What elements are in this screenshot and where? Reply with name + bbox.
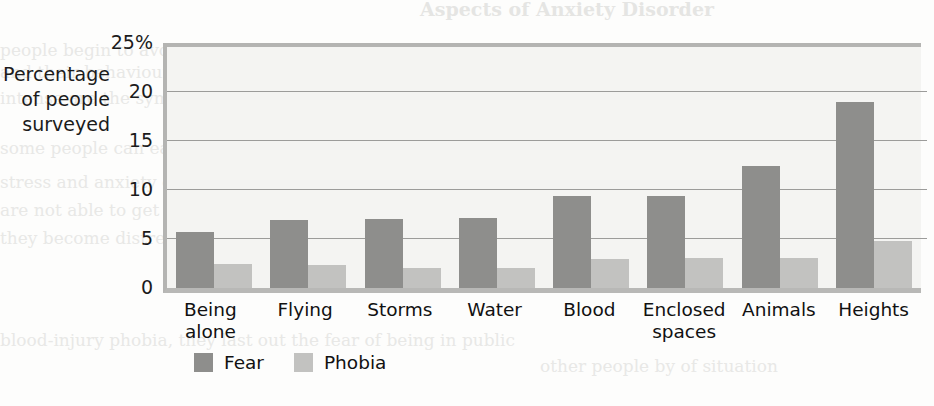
bar-phobia	[214, 264, 252, 289]
x-axis-category-label-line: alone	[163, 321, 258, 343]
bar-phobia	[591, 259, 629, 288]
bar-group	[638, 47, 732, 288]
bar-group	[167, 47, 261, 288]
bar-group	[356, 47, 450, 288]
legend-swatch-phobia	[294, 353, 313, 372]
bar-phobia	[403, 268, 441, 288]
x-axis-category-label-line: Water	[447, 299, 542, 321]
bar-fear	[742, 166, 780, 288]
x-axis-category-label: Flying	[258, 299, 353, 343]
chart-legend: FearPhobia	[194, 352, 386, 373]
x-axis-category-label: Heights	[826, 299, 921, 343]
bar-phobia	[685, 258, 723, 288]
x-axis-category-label: Beingalone	[163, 299, 258, 343]
bar-group	[827, 47, 921, 288]
bar-group	[450, 47, 544, 288]
bar-phobia	[308, 265, 346, 288]
bar-group	[733, 47, 827, 288]
x-axis-category-label-line: spaces	[637, 321, 732, 343]
bar-fear	[270, 220, 308, 288]
bar-fear	[647, 196, 685, 288]
chart-page: Aspects of Anxiety Disorderpeople begin …	[0, 0, 934, 406]
bar-phobia	[874, 241, 912, 288]
y-axis-tick-label: 0	[33, 276, 153, 298]
x-axis-category-label: Animals	[732, 299, 827, 343]
y-axis-tick-label: 20	[33, 80, 153, 102]
bar-fear	[553, 196, 591, 288]
x-axis-category-label-line: Flying	[258, 299, 353, 321]
plot-area	[163, 43, 921, 293]
x-axis-category-label-line: Animals	[732, 299, 827, 321]
bar-fear	[836, 102, 874, 288]
bar-phobia	[780, 258, 818, 288]
bar-fear	[176, 232, 214, 288]
x-axis-category-label: Storms	[353, 299, 448, 343]
legend-label: Phobia	[324, 352, 386, 373]
x-axis-category-label: Enclosedspaces	[637, 299, 732, 343]
x-axis-category-label-line: Storms	[353, 299, 448, 321]
legend-label: Fear	[224, 352, 264, 373]
legend-item-fear: Fear	[194, 352, 264, 373]
x-axis-category-label: Blood	[542, 299, 637, 343]
legend-swatch-fear	[194, 353, 213, 372]
legend-item-phobia: Phobia	[294, 352, 386, 373]
x-axis-labels: BeingaloneFlyingStormsWaterBloodEnclosed…	[163, 299, 921, 343]
y-axis-tick-label: 25%	[33, 31, 153, 53]
bar-fear	[459, 218, 497, 288]
y-axis-tick-label: 15	[33, 129, 153, 151]
bar-group	[261, 47, 355, 288]
x-axis-category-label-line: Being	[163, 299, 258, 321]
bar-fear	[365, 219, 403, 288]
x-axis-category-label-line: Enclosed	[637, 299, 732, 321]
bar-chart: Percentageof peoplesurveyed 0510152025% …	[0, 0, 934, 406]
y-axis-tick-label: 5	[33, 227, 153, 249]
x-axis-category-label: Water	[447, 299, 542, 343]
bar-phobia	[497, 268, 535, 288]
plot-inner	[167, 47, 921, 288]
x-axis-category-label-line: Heights	[826, 299, 921, 321]
x-axis-category-label-line: Blood	[542, 299, 637, 321]
bar-groups	[167, 47, 921, 288]
y-axis-tick-label: 10	[33, 178, 153, 200]
bar-group	[544, 47, 638, 288]
